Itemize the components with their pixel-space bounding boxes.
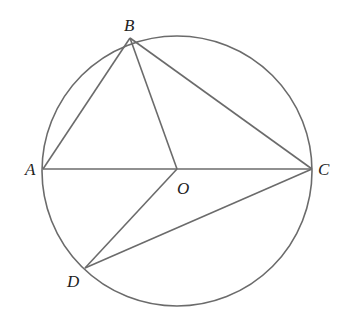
segment-ab bbox=[43, 38, 130, 169]
segment-bo bbox=[130, 38, 177, 169]
circumcircle bbox=[42, 36, 312, 306]
label-a: A bbox=[24, 160, 36, 179]
segment-dc bbox=[85, 169, 312, 268]
label-b: B bbox=[124, 16, 135, 35]
segment-bc bbox=[130, 38, 312, 169]
segment-od bbox=[85, 169, 177, 268]
label-c: C bbox=[318, 160, 330, 179]
label-o: O bbox=[177, 179, 189, 198]
label-d: D bbox=[66, 272, 80, 291]
geometry-diagram: B A C O D bbox=[0, 0, 345, 323]
